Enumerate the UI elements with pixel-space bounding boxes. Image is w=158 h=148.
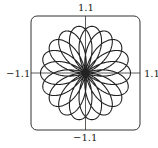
- y-max-label: 1.1: [78, 3, 94, 13]
- x-max-label: 1.1: [144, 69, 158, 79]
- y-min-label: −1.1: [73, 133, 97, 143]
- x-min-label: −1.1: [6, 69, 30, 79]
